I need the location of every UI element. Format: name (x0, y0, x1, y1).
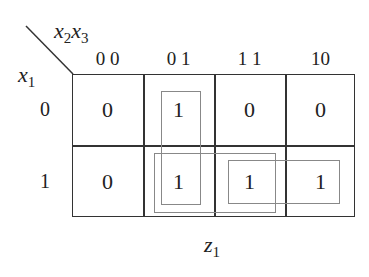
output-label: z1 (204, 232, 220, 261)
grouping-loop-row1-11-10 (228, 160, 340, 204)
row-variable-label: x1 (18, 62, 35, 91)
cell-0-11: 0 (214, 74, 285, 145)
column-header-00: 0 0 (72, 48, 143, 70)
column-header-01: 0 1 (143, 48, 214, 70)
column-variables-label: x2x3 (54, 18, 89, 47)
row-header-1: 1 (40, 170, 50, 193)
row-header-0: 0 (40, 98, 50, 121)
cell-0-10: 0 (285, 74, 356, 145)
cell-1-00: 0 (72, 146, 143, 217)
column-header-10: 10 (285, 48, 356, 70)
column-header-11: 1 1 (214, 48, 285, 70)
cell-0-00: 0 (72, 74, 143, 145)
